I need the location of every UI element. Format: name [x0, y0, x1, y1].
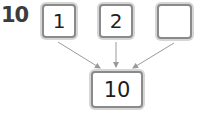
part-box-2: 2 [99, 4, 133, 38]
part-value-2: 2 [110, 9, 123, 33]
arrow-3 [133, 43, 174, 68]
whole-box: 10 [91, 71, 143, 108]
part-value-1: 1 [53, 9, 66, 33]
whole-value: 10 [104, 78, 131, 102]
part-box-3-blank[interactable] [157, 4, 192, 39]
arrow-1 [58, 42, 100, 68]
part-box-1: 1 [42, 4, 76, 38]
